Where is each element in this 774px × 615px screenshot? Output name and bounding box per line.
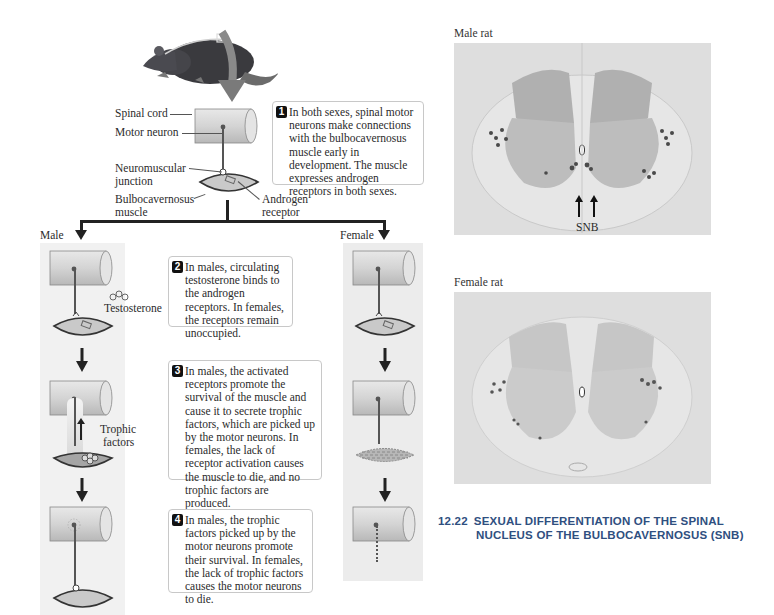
label-testosterone: Testosterone (104, 302, 162, 315)
step-number-badge: 2 (172, 261, 183, 273)
snb-arrow-left-icon (575, 195, 583, 217)
up-arrow-icon (77, 418, 85, 440)
step-number-badge: 1 (276, 106, 287, 118)
motor-axon (378, 400, 380, 444)
step-3-box: 3 In males, the activated receptors prom… (168, 360, 322, 480)
down-arrow-icon (378, 348, 392, 372)
spinal-cord-cylinder-female-2 (351, 380, 417, 416)
step-2-box: 2 In males, circulating testosterone bin… (168, 256, 293, 327)
motor-axon (74, 526, 76, 586)
muscle-male-3 (52, 584, 114, 614)
step-text: In males, the trophic factors picked up … (185, 514, 303, 605)
step-text: In males, circulating testosterone binds… (185, 261, 284, 339)
motor-axon (378, 270, 380, 314)
step-4-box: 4 In males, the trophic factors picked u… (168, 509, 313, 593)
muscle-female-1 (354, 310, 416, 342)
spinal-cord-cylinder-top (193, 108, 259, 144)
spinal-cord-cylinder-female-1 (351, 250, 417, 286)
down-arrow-icon (75, 478, 89, 502)
figure-caption: 12.22SEXUAL DIFFERENTIATION OF THE SPINA… (438, 514, 758, 542)
motor-axon-top (222, 128, 224, 172)
branch-line (80, 220, 386, 223)
label-trophic-2: factors (103, 436, 134, 449)
leader-line (170, 114, 192, 115)
step-text: In males, the activated receptors promot… (185, 365, 315, 509)
female-rat-micrograph (454, 292, 711, 484)
motor-axon (74, 270, 76, 314)
spinal-cord-cylinder-male-1 (48, 250, 114, 286)
step-text: In both sexes, spinal motor neurons make… (289, 106, 413, 197)
leader-line (182, 133, 222, 134)
female-rat-title: Female rat (454, 276, 503, 288)
down-arrow-icon (378, 478, 392, 502)
motor-axon (74, 398, 76, 446)
label-trophic-1: Trophic (100, 423, 136, 436)
figure-number: 12.22 (438, 515, 468, 527)
degenerating-axon-female (376, 526, 378, 562)
label-nmj-1: Neuromuscular (115, 162, 186, 175)
caption-line-1: SEXUAL DIFFERENTIATION OF THE SPINAL (474, 515, 724, 527)
step-number-badge: 4 (172, 514, 183, 526)
label-motor-neuron: Motor neuron (115, 126, 179, 139)
label-male: Male (40, 229, 64, 242)
snb-arrow-right-icon (590, 195, 598, 217)
spinal-cord-cylinder-female-3 (351, 506, 417, 542)
branch-arrow-female (377, 220, 391, 240)
label-nmj-2: junction (115, 175, 153, 188)
down-arrow-icon (75, 348, 89, 372)
testosterone-molecule-icon (108, 290, 130, 302)
step-number-badge: 3 (172, 365, 183, 377)
label-spinal-cord: Spinal cord (115, 107, 168, 120)
trunk-line (226, 200, 229, 222)
label-androgen-2: receptor (262, 206, 300, 219)
spinal-cord-cylinder-male-3 (48, 506, 114, 542)
snb-label: SNB (576, 221, 598, 234)
step-1-box: 1 In both sexes, spinal motor neurons ma… (272, 101, 424, 185)
degenerating-muscle-female (354, 440, 416, 470)
label-female: Female (340, 229, 374, 242)
curved-arrow-icon (200, 28, 250, 103)
branch-arrow-male (74, 220, 88, 240)
label-bulbocavernosus-1: Bulbocavernosus (115, 193, 194, 206)
caption-line-2: NUCLEUS OF THE BULBOCAVERNOSUS (SNB) (476, 529, 744, 541)
male-rat-title: Male rat (454, 27, 493, 39)
label-bulbocavernosus-2: muscle (115, 206, 148, 219)
